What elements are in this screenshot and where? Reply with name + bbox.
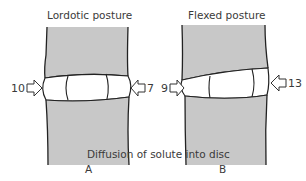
panel-a-disc: [43, 74, 131, 101]
panel-b-spine: [170, 25, 286, 165]
panel-b-title: Flexed posture: [188, 10, 265, 21]
panel-a-upper-vertebra: [45, 27, 128, 78]
caption: Diffusion of solute into disc: [87, 149, 230, 160]
panel-b-right-arrow-icon: [271, 75, 286, 91]
panel-a-right-arrow-icon: [131, 80, 145, 96]
panel-a-letter: A: [85, 164, 92, 175]
panel-a-left-arrow-icon: [27, 80, 42, 96]
panel-a-spine: [27, 27, 145, 165]
panel-b-letter: B: [219, 164, 226, 175]
panel-b-right-value: 13: [288, 78, 302, 89]
panel-a-left-value: 10: [11, 83, 25, 94]
panel-a-right-value: 7: [147, 83, 154, 94]
panel-a-title: Lordotic posture: [47, 10, 132, 21]
panel-b-left-value: 9: [161, 83, 168, 94]
